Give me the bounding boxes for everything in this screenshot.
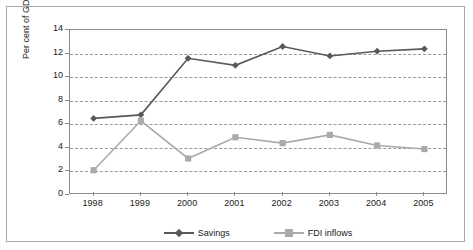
x-tick-mark	[329, 192, 330, 196]
legend-label: Savings	[198, 228, 230, 238]
x-tick-mark	[376, 192, 377, 196]
legend-swatch-icon	[274, 228, 304, 238]
chart-legend: SavingsFDI inflows	[69, 223, 447, 243]
y-tick-label: 2	[37, 164, 63, 174]
legend-item[interactable]: FDI inflows	[274, 228, 353, 238]
data-point	[232, 134, 238, 140]
legend-label: FDI inflows	[308, 228, 353, 238]
data-point	[90, 115, 97, 122]
legend-marker-icon	[174, 229, 182, 237]
legend-item[interactable]: Savings	[164, 228, 230, 238]
x-tick-label: 1999	[120, 198, 160, 208]
data-point	[280, 140, 286, 146]
data-point	[279, 43, 286, 50]
data-point	[421, 45, 428, 52]
x-tick-mark	[423, 192, 424, 196]
y-tick-label: 12	[37, 47, 63, 57]
x-tick-mark	[234, 192, 235, 196]
data-point	[326, 53, 333, 60]
y-axis-label: Per cent of GDP	[21, 0, 31, 59]
data-point	[91, 167, 97, 173]
data-point	[374, 48, 381, 55]
y-tick-label: 8	[37, 94, 63, 104]
chart-frame: Per cent of GDP 02468101214 199819992000…	[6, 6, 465, 242]
x-tick-label: 2005	[403, 198, 443, 208]
x-tick-mark	[140, 192, 141, 196]
data-point	[232, 62, 239, 69]
y-tick-label: 14	[37, 23, 63, 33]
data-point	[421, 146, 427, 152]
data-point	[138, 118, 144, 124]
series-layer	[70, 30, 448, 195]
x-tick-label: 2003	[309, 198, 349, 208]
x-tick-label: 2004	[356, 198, 396, 208]
data-point	[185, 155, 191, 161]
x-tick-label: 2001	[214, 198, 254, 208]
y-tick-label: 10	[37, 70, 63, 80]
x-tick-mark	[282, 192, 283, 196]
x-tick-mark	[187, 192, 188, 196]
x-tick-label: 2000	[167, 198, 207, 208]
x-axis-ticks: 19981999200020012002200320042005	[69, 196, 447, 212]
y-tick-mark	[65, 194, 69, 195]
data-point	[374, 142, 380, 148]
x-tick-mark	[93, 192, 94, 196]
data-point	[327, 132, 333, 138]
y-tick-label: 6	[37, 117, 63, 127]
y-tick-label: 4	[37, 141, 63, 151]
x-tick-label: 2002	[262, 198, 302, 208]
series-line-savings	[94, 47, 425, 119]
legend-swatch-icon	[164, 228, 194, 238]
y-tick-label: 0	[37, 188, 63, 198]
legend-marker-icon	[285, 229, 293, 237]
plot-area	[69, 29, 447, 194]
x-tick-label: 1998	[73, 198, 113, 208]
